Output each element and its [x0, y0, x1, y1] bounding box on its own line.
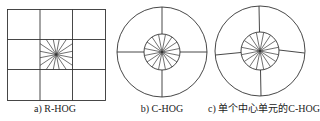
r-hog-figure — [8, 10, 106, 101]
c-hog-single-center-figure — [215, 6, 305, 96]
caption-c-hog-single-center: c) 单个中心单元的C-HOG — [208, 102, 320, 116]
caption-r-hog: a) R-HOG — [20, 102, 90, 116]
c-hog-figure — [117, 7, 207, 97]
caption-c-hog: b) C-HOG — [127, 102, 197, 116]
